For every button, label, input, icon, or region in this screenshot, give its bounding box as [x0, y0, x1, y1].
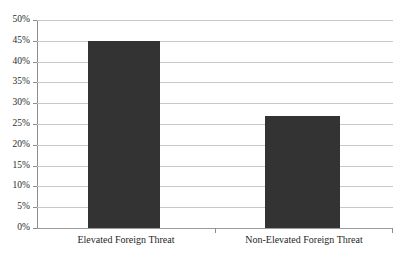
bar-elevated-foreign-threat [88, 41, 160, 228]
x-axis-category-label: Elevated Foreign Threat [37, 234, 215, 246]
y-axis-label: 25% [13, 119, 30, 129]
y-axis-label: 0% [17, 223, 30, 233]
x-axis-category-label: Non-Elevated Foreign Threat [215, 234, 393, 246]
y-axis-label: 30% [13, 98, 30, 108]
y-axis-label: 35% [13, 77, 30, 87]
y-axis-label: 5% [17, 202, 30, 212]
y-axis-label: 20% [13, 140, 30, 150]
x-axis-tick [215, 228, 216, 233]
y-axis-label: 40% [13, 57, 30, 67]
gridline [37, 20, 393, 21]
plot-area [37, 20, 393, 228]
y-axis-label: 50% [13, 15, 30, 25]
bar-non-elevated-foreign-threat [265, 116, 340, 228]
y-axis-label: 15% [13, 161, 30, 171]
bar-chart: 50% 45% 40% 35% 30% 25% 20% 15% 10% 5% 0 [0, 0, 403, 265]
y-axis-label: 10% [13, 181, 30, 191]
x-axis-tick [392, 228, 393, 233]
y-axis-label: 45% [13, 36, 30, 46]
